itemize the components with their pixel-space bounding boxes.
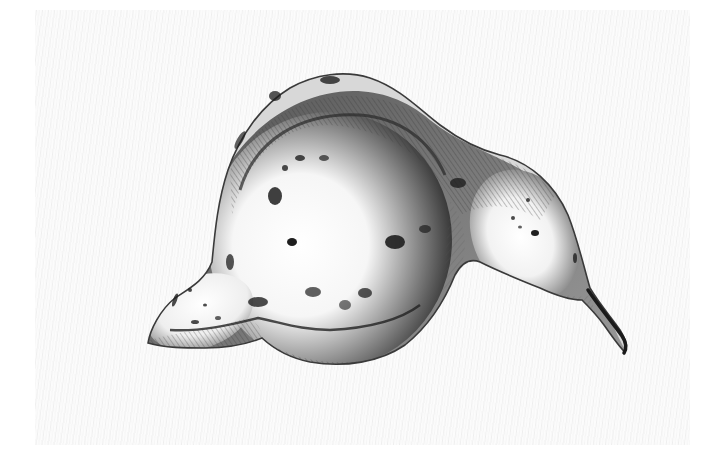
gourd-sketch-illustration bbox=[0, 0, 726, 473]
